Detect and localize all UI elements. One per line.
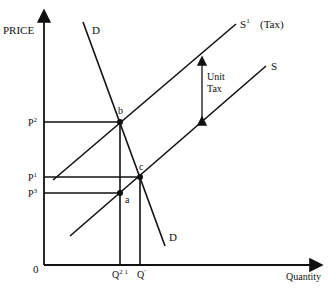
origin-label: 0 [33, 263, 39, 275]
unit-tax-label-line1: Unit [207, 71, 225, 82]
supply-curve [70, 66, 266, 236]
supply-tax-label: S1 [240, 17, 250, 30]
point-b [117, 119, 123, 125]
demand-curve [83, 22, 165, 246]
x-axis-label: Quantity [286, 271, 321, 282]
p1-label: P1 [28, 171, 38, 183]
q2-label: Q2 1 [112, 268, 128, 280]
point-c [137, 174, 143, 180]
p3-label: P3 [28, 187, 38, 199]
supply-tax-note: (Tax) [260, 18, 284, 31]
tax-incidence-diagram: PRICE Quantity 0 D D S1 (Tax) S Unit Tax… [0, 0, 330, 288]
q1-label: Q' [137, 268, 146, 280]
point-a [117, 190, 123, 196]
supply-curve-tax [53, 24, 236, 180]
demand-label-bottom: D [169, 231, 177, 243]
demand-label-top: D [92, 24, 100, 36]
point-b-label: b [118, 105, 123, 116]
y-axis-label: PRICE [3, 24, 34, 36]
point-c-label: c [139, 161, 144, 172]
unit-tax-label-line2: Tax [207, 83, 222, 94]
p2-label: P2 [28, 116, 38, 128]
supply-label: S [271, 60, 277, 72]
point-a-label: a [125, 194, 130, 205]
